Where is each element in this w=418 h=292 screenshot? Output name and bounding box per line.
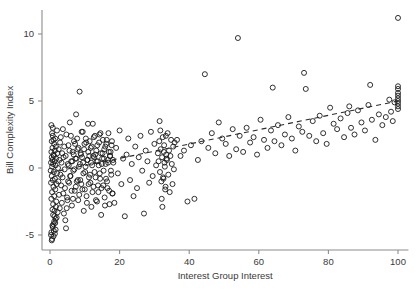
scatter-point — [101, 168, 106, 173]
scatter-point — [213, 151, 218, 156]
scatter-point — [147, 180, 152, 185]
scatter-point — [171, 167, 176, 172]
scatter-point — [255, 152, 260, 157]
scatter-point — [90, 121, 95, 126]
scatter-point — [324, 141, 329, 146]
scatter-point — [209, 131, 214, 136]
y-tick-label: -5 — [26, 229, 34, 240]
scatter-point — [362, 128, 367, 133]
scatter-point — [128, 178, 133, 183]
scatter-point — [66, 179, 71, 184]
scatter-point — [145, 159, 150, 164]
scatter-point — [69, 188, 74, 193]
scatter-point — [389, 109, 394, 114]
scatter-point — [272, 139, 277, 144]
scatter-point — [181, 148, 186, 153]
y-axis-ticks: -50510 — [23, 28, 42, 240]
scatter-point — [136, 155, 141, 160]
scatter-point — [160, 204, 165, 209]
scatter-point — [64, 226, 69, 231]
scatter-point — [241, 149, 246, 154]
scatter-point — [76, 198, 81, 203]
y-axis-title: Bill Complexity Index — [4, 86, 15, 174]
scatter-point — [90, 190, 95, 195]
scatter-point — [328, 105, 333, 110]
scatter-point — [102, 203, 107, 208]
scatter-point — [58, 140, 63, 145]
scatter-point — [338, 116, 343, 121]
scatter-point — [98, 176, 103, 181]
scatter-point — [84, 200, 89, 205]
scatter-point — [140, 168, 145, 173]
scatter-point — [390, 119, 395, 124]
scatter-point — [262, 137, 267, 142]
scatter-point — [195, 157, 200, 162]
scatter-point — [258, 117, 263, 122]
scatter-point — [223, 141, 228, 146]
scatter-point — [152, 141, 157, 146]
scatter-point — [268, 128, 273, 133]
scatter-point — [159, 196, 164, 201]
scatter-point — [310, 119, 315, 124]
scatter-point — [74, 112, 79, 117]
scatter-point — [162, 143, 167, 148]
scatter-point — [169, 161, 174, 166]
scatter-point — [347, 104, 352, 109]
scatter-point — [270, 85, 275, 90]
scatter-point — [368, 82, 373, 87]
x-tick-label: 100 — [390, 256, 406, 267]
scatter-point — [293, 148, 298, 153]
y-tick-label: 5 — [29, 95, 34, 106]
scatter-point — [60, 127, 65, 132]
scatter-point — [383, 115, 388, 120]
scatter-point — [380, 123, 385, 128]
scatter-point — [92, 170, 97, 175]
scatter-point — [114, 145, 119, 150]
y-tick-label: 0 — [29, 162, 34, 173]
scatter-point — [75, 136, 80, 141]
scatter-point — [70, 196, 75, 201]
scatter-point — [192, 196, 197, 201]
scatter-point — [72, 167, 77, 172]
scatter-point — [59, 200, 64, 205]
scatter-plot-figure: 020406080100 -50510 Interest Group Inter… — [0, 0, 418, 292]
x-tick-label: 60 — [254, 256, 265, 267]
scatter-point — [150, 174, 155, 179]
scatter-point — [345, 111, 350, 116]
scatter-point — [138, 133, 143, 138]
scatter-point — [77, 89, 82, 94]
scatter-point — [133, 144, 138, 149]
scatter-point — [321, 131, 326, 136]
scatter-point — [62, 186, 67, 191]
scatter-point — [376, 112, 381, 117]
scatter-point — [349, 125, 354, 130]
scatter-point — [335, 127, 340, 132]
scatter-point — [157, 119, 162, 124]
y-tick-label: 10 — [23, 28, 34, 39]
scatter-point — [119, 182, 124, 187]
scatter-point — [64, 206, 69, 211]
scatter-point — [84, 194, 89, 199]
scatter-point — [185, 199, 190, 204]
scatter-point — [63, 218, 68, 223]
scatter-point — [112, 200, 117, 205]
scatter-point — [115, 171, 120, 176]
scatter-point — [206, 145, 211, 150]
scatter-point — [169, 137, 174, 142]
scatter-point — [314, 139, 319, 144]
scatter-point — [61, 211, 66, 216]
scatter-point — [289, 136, 294, 141]
scatter-point — [251, 135, 256, 140]
chart-canvas: 020406080100 -50510 Interest Group Inter… — [0, 0, 418, 292]
x-tick-label: 80 — [323, 256, 334, 267]
scatter-point — [96, 183, 101, 188]
x-tick-label: 40 — [184, 256, 195, 267]
scatter-point — [170, 182, 175, 187]
scatter-point — [67, 120, 72, 125]
scatter-point — [102, 195, 107, 200]
scatter-point — [235, 36, 240, 41]
scatter-point — [89, 144, 94, 149]
scatter-point — [58, 135, 63, 140]
scatter-point — [303, 86, 308, 91]
scatter-point — [131, 194, 136, 199]
